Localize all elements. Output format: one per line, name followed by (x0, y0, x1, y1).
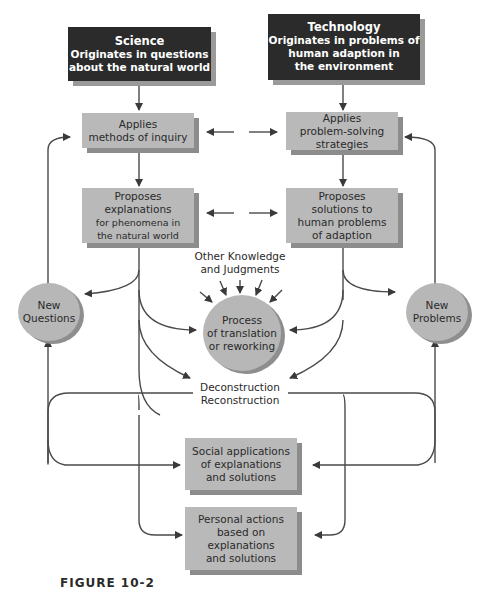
strategies-line1: Applies (323, 112, 361, 125)
science-line1: Originates in questions (70, 48, 208, 61)
deconstruction-line1: Deconstruction (190, 381, 290, 394)
personal-line2: based on (217, 526, 265, 539)
social-line2: of explanations (201, 458, 282, 471)
technology-line1: Originates in problems of (269, 34, 420, 47)
technology-title: Technology (308, 21, 381, 34)
explanations-line4: the natural world (97, 229, 179, 242)
inquiry-line2: methods of inquiry (88, 131, 187, 144)
science-line2: about the natural world (69, 61, 210, 74)
science-explanations-box: Proposes explanations for phenomena in t… (82, 188, 194, 243)
new-problems-line1: New (426, 299, 449, 312)
other-knowledge-line2: and Judgments (180, 263, 300, 276)
new-problems-line2: Problems (413, 312, 461, 325)
science-inquiry-box: Applies methods of inquiry (82, 113, 194, 148)
science-box: Science Originates in questions about th… (68, 27, 211, 81)
technology-line3: the environment (295, 60, 394, 73)
personal-line1: Personal actions (198, 513, 284, 526)
tech-strategies-box: Applies problem-solving strategies (286, 112, 398, 150)
inquiry-line1: Applies (119, 118, 157, 131)
new-questions-line2: Questions (23, 312, 75, 325)
technology-box: Technology Originates in problems of hum… (268, 14, 420, 80)
social-line1: Social applications (192, 445, 290, 458)
process-circle: Process of translation or reworking (203, 295, 281, 371)
deconstruction-line2: Reconstruction (190, 394, 290, 407)
process-line2: of translation (207, 327, 277, 340)
explanations-line1: Proposes (114, 190, 161, 203)
new-questions-line1: New (38, 299, 61, 312)
explanations-line3: for phenomena in (96, 216, 180, 229)
strategies-line3: strategies (316, 138, 368, 151)
new-questions-circle: New Questions (18, 283, 80, 341)
solutions-line2: solutions to (312, 203, 373, 216)
deconstruction-label: Deconstruction Reconstruction (190, 381, 290, 407)
solutions-line4: of adaption (312, 229, 372, 242)
figure-caption: FIGURE 10-2 (60, 576, 155, 590)
other-knowledge-line1: Other Knowledge (180, 250, 300, 263)
personal-line3: explanations (207, 539, 274, 552)
personal-line4: and solutions (206, 552, 276, 565)
social-line3: and solutions (206, 471, 276, 484)
process-line1: Process (222, 314, 262, 327)
technology-line2: human adaption in (288, 47, 399, 60)
solutions-line3: human problems (298, 216, 387, 229)
tech-solutions-box: Proposes solutions to human problems of … (286, 188, 398, 243)
process-line3: or reworking (209, 340, 275, 353)
explanations-line2: explanations (104, 203, 171, 216)
personal-actions-box: Personal actions based on explanations a… (185, 507, 297, 570)
other-knowledge-label: Other Knowledge and Judgments (180, 250, 300, 276)
solutions-line1: Proposes (318, 190, 365, 203)
science-title: Science (115, 35, 165, 48)
social-applications-box: Social applications of explanations and … (185, 438, 297, 490)
new-problems-circle: New Problems (406, 283, 468, 341)
strategies-line2: problem-solving (300, 125, 385, 138)
